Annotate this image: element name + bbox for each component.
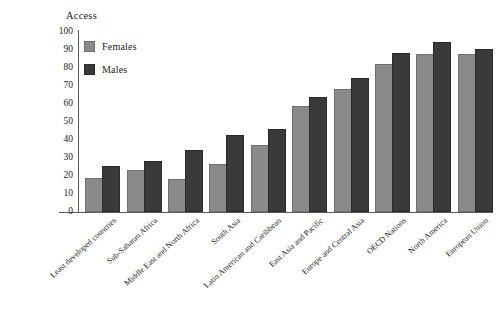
bar-males[interactable] <box>433 42 451 212</box>
y-axis-tick-90: 90 <box>52 45 73 55</box>
y-axis-tick-100: 100 <box>52 27 73 37</box>
bar-group <box>375 32 408 212</box>
y-axis-tick-80: 80 <box>52 63 73 73</box>
bar-females[interactable] <box>85 178 103 212</box>
bar-females[interactable] <box>416 54 434 212</box>
x-axis-label: North America <box>407 216 449 255</box>
bar-group <box>251 32 284 212</box>
bar-chart: Access 0102030405060708090100 Least deve… <box>0 0 501 326</box>
legend-item-males[interactable]: Males <box>84 61 137 77</box>
y-axis-tick-20: 20 <box>52 171 73 181</box>
x-axis-label: Middle East and North Africa <box>122 216 200 288</box>
bar-males[interactable] <box>392 53 410 212</box>
bar-males[interactable] <box>268 129 286 212</box>
bar-females[interactable] <box>375 64 393 212</box>
bar-males[interactable] <box>226 135 244 212</box>
legend: Females Males <box>84 38 137 84</box>
y-axis-tick-30: 30 <box>52 153 73 163</box>
bar-females[interactable] <box>209 164 227 212</box>
y-axis-tick-0: 0 <box>52 207 73 217</box>
x-axis-label: South Asia <box>209 216 242 247</box>
bar-males[interactable] <box>144 161 162 212</box>
bar-group <box>292 32 325 212</box>
x-axis-label: OECD Nations <box>364 216 407 256</box>
legend-label-females: Females <box>102 41 137 52</box>
bar-females[interactable] <box>458 54 476 212</box>
bar-group <box>209 32 242 212</box>
y-axis-tick-40: 40 <box>52 135 73 145</box>
bar-group <box>168 32 201 212</box>
plot-area <box>78 32 492 212</box>
bar-males[interactable] <box>185 150 203 212</box>
bar-group <box>416 32 449 212</box>
bar-group <box>458 32 491 212</box>
y-axis-tick-50: 50 <box>52 117 73 127</box>
bar-group <box>334 32 367 212</box>
x-axis-label: European Union <box>444 216 490 259</box>
bar-males[interactable] <box>351 78 369 212</box>
legend-label-males: Males <box>102 64 127 75</box>
y-axis-tick-60: 60 <box>52 99 73 109</box>
bar-females[interactable] <box>292 106 310 212</box>
bar-males[interactable] <box>102 166 120 212</box>
legend-swatch-females-icon <box>84 41 95 52</box>
x-axis-line <box>59 212 493 213</box>
bar-females[interactable] <box>334 89 352 213</box>
bar-females[interactable] <box>251 145 269 212</box>
x-axis-label: Latin American and Caribbean <box>202 216 283 290</box>
legend-swatch-males-icon <box>84 64 95 75</box>
bar-males[interactable] <box>309 97 327 212</box>
bar-males[interactable] <box>475 49 493 212</box>
y-axis-tick-70: 70 <box>52 81 73 91</box>
legend-item-females[interactable]: Females <box>84 38 137 54</box>
bar-females[interactable] <box>127 170 145 212</box>
bar-females[interactable] <box>168 179 186 213</box>
y-axis-tick-10: 10 <box>52 189 73 199</box>
